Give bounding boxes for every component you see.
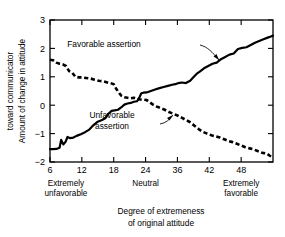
category-label: Extremely (48, 179, 85, 188)
attitude-change-line-chart: 6121824364248 3210−1−2 Favorable asserti… (0, 0, 285, 237)
y-tick-label: 3 (40, 15, 45, 25)
svg-text:toward communicator: toward communicator (6, 52, 15, 131)
unfavorable-assertion-label-line2: assertion (95, 121, 129, 131)
y-tick-label: 2 (40, 44, 45, 54)
chart-figure: 6121824364248 3210−1−2 Favorable asserti… (0, 0, 285, 237)
y-tick-label: 1 (40, 72, 45, 82)
category-label: Extremely (223, 179, 260, 188)
x-tick-label: 6 (47, 165, 52, 175)
y-tick-label: −2 (35, 157, 45, 167)
svg-text:Degree of extremeness: Degree of extremeness (117, 206, 204, 216)
y-tick-label: 0 (40, 101, 45, 111)
chart-background (0, 0, 285, 237)
y-tick-label: −1 (35, 129, 45, 139)
x-tick-label: 12 (77, 165, 87, 175)
svg-text:Amount of change in attitude: Amount of change in attitude (18, 38, 27, 143)
x-tick-label: 24 (141, 165, 151, 175)
x-tick-label: 48 (236, 165, 246, 175)
category-label-line2: unfavorable (45, 189, 88, 198)
x-tick-label: 36 (172, 165, 182, 175)
category-label: Neutral (132, 179, 159, 188)
x-tick-label: 18 (109, 165, 119, 175)
favorable-assertion-label: Favorable assertion (67, 39, 141, 49)
svg-text:of original attitude: of original attitude (128, 218, 194, 228)
category-label-line2: favorable (224, 189, 258, 198)
unfavorable-assertion-label: Unfavorable (89, 110, 135, 120)
x-tick-label: 42 (204, 165, 214, 175)
